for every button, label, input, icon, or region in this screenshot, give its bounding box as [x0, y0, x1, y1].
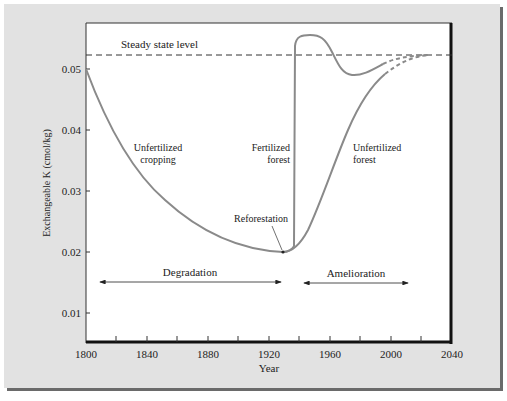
x-tick-label: 1920 — [258, 348, 281, 360]
x-tick-label: 1960 — [319, 348, 342, 360]
x-tick-label: 1880 — [197, 348, 220, 360]
x-tick-label: 1840 — [136, 348, 159, 360]
x-axis-label: Year — [259, 362, 280, 374]
fertilized-label-line1: Fertilized — [252, 142, 290, 153]
x-tick-label: 2000 — [380, 348, 403, 360]
steady-state-label: Steady state level — [121, 38, 198, 50]
x-tick-label: 2040 — [441, 348, 464, 360]
x-tick-label: 1800 — [75, 348, 98, 360]
x-tick-labels: 1800 1840 1880 1920 1960 2000 2040 — [75, 348, 464, 360]
y-tick-label: 0.01 — [62, 307, 81, 319]
reforestation-point — [281, 250, 284, 253]
chart: 0.05 0.04 0.03 0.02 0.01 1800 1840 1880 … — [0, 0, 507, 401]
reforestation-label: Reforestation — [234, 213, 288, 224]
y-tick-labels: 0.05 0.04 0.03 0.02 0.01 — [62, 63, 82, 319]
y-axis-label: Exchangeable K (cmol/kg) — [41, 129, 53, 237]
plot-area — [86, 23, 452, 342]
fertilized-label-line2: forest — [267, 154, 290, 165]
y-tick-label: 0.05 — [62, 63, 82, 75]
y-tick-label: 0.02 — [62, 246, 81, 258]
unfertilized-forest-label-line1: Unfertilized — [353, 142, 401, 153]
cropping-label-line1: Unfertilized — [134, 142, 182, 153]
cropping-label-line2: cropping — [140, 154, 176, 165]
y-tick-label: 0.04 — [62, 124, 82, 136]
unfertilized-forest-label-line2: forest — [353, 154, 376, 165]
degradation-label: Degradation — [163, 266, 218, 278]
y-tick-label: 0.03 — [62, 185, 82, 197]
amelioration-label: Amelioration — [327, 267, 386, 279]
